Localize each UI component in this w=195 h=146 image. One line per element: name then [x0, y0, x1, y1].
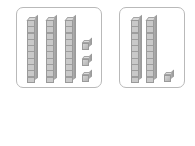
ten-rod-block [27, 17, 38, 83]
block-group-left-blocks [17, 8, 101, 87]
unit-cube-block [82, 72, 92, 82]
unit-cube-side-face [89, 53, 92, 63]
ten-rod-block [46, 17, 57, 83]
unit-cube-front-face [82, 75, 89, 82]
ten-rod-side-face [139, 15, 142, 80]
unit-cube-block [82, 40, 92, 50]
ten-rod-front-face [146, 20, 154, 83]
unit-cube-front-face [82, 43, 89, 50]
unit-cube-front-face [164, 75, 171, 82]
unit-cube-front-face [82, 59, 89, 66]
unit-cube-block [164, 72, 174, 82]
block-group-left [16, 7, 102, 88]
ten-rod-side-face [154, 15, 157, 80]
equation-row: 33+ [0, 99, 195, 146]
ten-rod-side-face [73, 15, 76, 80]
unit-cube-block [82, 56, 92, 66]
ten-rod-front-face [131, 20, 139, 83]
ten-rod-block [146, 17, 157, 83]
base-ten-blocks-worksheet: 33+ [0, 0, 195, 146]
ten-rod-side-face [35, 15, 38, 80]
ten-rod-front-face [46, 20, 54, 83]
unit-cube-side-face [89, 69, 92, 79]
unit-cube-side-face [89, 37, 92, 47]
ten-rod-block [131, 17, 142, 83]
block-group-right-blocks [120, 8, 184, 87]
block-group-right [119, 7, 185, 88]
ten-rod-front-face [65, 20, 73, 83]
ten-rod-block [65, 17, 76, 83]
ten-rod-side-face [54, 15, 57, 80]
unit-cube-side-face [171, 69, 174, 79]
ten-rod-front-face [27, 20, 35, 83]
